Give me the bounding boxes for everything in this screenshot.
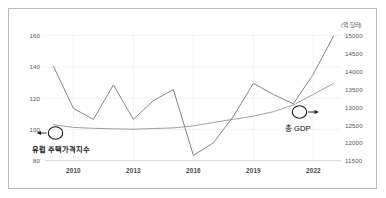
chart-screenshot: 160 140 120 100 80 (억 달러) 15000 14500 14… (0, 0, 386, 198)
housing-index-callout (37, 127, 63, 139)
y-axis-right-tick-15000: 15000 (345, 32, 363, 39)
annotation-label-housing-index: 유럽 주택가격지수 (32, 144, 90, 154)
y-axis-right-tick-11500: 11500 (345, 157, 362, 164)
y-axis-right-tick-12500: 12500 (345, 122, 363, 129)
y-axis-right-tick-14000: 14000 (345, 68, 363, 75)
y-axis-left-tick-100: 100 (20, 126, 40, 133)
y-axis-right-unit-label: (억 달러) (341, 20, 361, 29)
callout-circle-gdp (292, 106, 306, 118)
y-axis-right-tick-14500: 14500 (345, 50, 363, 57)
y-axis-left-tick-160: 160 (20, 32, 40, 39)
total-gdp-callout (292, 106, 318, 118)
gridlines (45, 32, 341, 161)
y-axis-right-tick-13500: 13500 (345, 86, 363, 93)
annotation-label-total-gdp: 총 GDP (285, 122, 311, 133)
callout-arrow-head-gdp (315, 110, 319, 114)
x-axis-tick-2016: 2016 (178, 167, 208, 174)
y-axis-right-tick-13000: 13000 (345, 104, 363, 111)
y-axis-left-tick-80: 80 (20, 157, 40, 164)
x-axis-tick-2013: 2013 (118, 167, 148, 174)
y-axis-left-tick-140: 140 (20, 63, 40, 70)
x-axis-tick-2019: 2019 (238, 167, 268, 174)
x-axis-tick-2022: 2022 (298, 167, 328, 174)
x-axis-tick-2010: 2010 (58, 167, 88, 174)
y-axis-left-tick-120: 120 (20, 95, 40, 102)
callout-circle-housing (48, 127, 62, 139)
y-axis-right-tick-12000: 12000 (345, 139, 363, 146)
